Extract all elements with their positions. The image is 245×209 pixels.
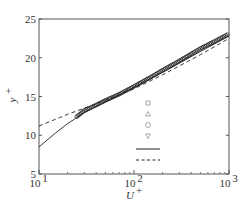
y-axis-label: y [6,97,18,103]
x-tick-label: 10 [125,177,137,189]
legend-square-icon [146,101,150,105]
x-tick-label: 10 [30,177,42,189]
solid-line [39,36,229,147]
x-tick-label: 10 [220,177,232,189]
chart: 510152025101102103U+y+ [0,0,245,209]
y-tick-label: 10 [25,129,37,141]
y-axis-label-sup: + [2,88,14,94]
x-axis-label-sup: + [136,184,142,196]
x-tick-exponent: 1 [42,172,48,184]
x-axis-label: U [126,189,135,201]
legend-circle-icon [146,123,151,128]
legend-triangle-down-icon [146,134,151,139]
x-tick-exponent: 2 [137,172,143,184]
y-tick-label: 15 [25,91,37,103]
legend-triangle-up-icon [146,112,151,117]
plot-frame [39,19,229,174]
y-tick-label: 20 [25,52,37,64]
x-tick-exponent: 3 [232,172,238,184]
y-tick-label: 25 [25,13,37,25]
